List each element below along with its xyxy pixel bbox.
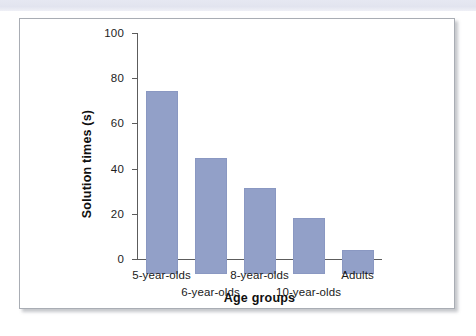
y-axis-tick: 0 <box>132 259 137 260</box>
x-axis-category-label: 8-year-olds <box>230 269 289 281</box>
x-axis-category-label: 5-year-olds <box>132 269 191 281</box>
y-axis-title: Solution times (s) <box>80 109 94 217</box>
y-axis-tick: 100 <box>132 33 137 34</box>
y-axis-tick: 20 <box>132 214 137 215</box>
y-axis-tick: 80 <box>132 78 137 79</box>
y-axis-tick-label: 20 <box>111 208 124 220</box>
y-axis-tick-label: 60 <box>111 117 124 129</box>
page-top-strip <box>0 0 476 11</box>
bar <box>146 91 178 274</box>
y-axis-line <box>137 33 138 260</box>
bar <box>244 188 276 274</box>
y-axis-tick: 60 <box>132 123 137 124</box>
y-axis-tick-label: 40 <box>111 163 124 175</box>
bar <box>195 158 227 274</box>
bar <box>293 218 325 275</box>
chart-panel: Solution times (s) 020406080100 5-year-o… <box>19 18 455 309</box>
y-axis-tick-label: 80 <box>111 72 124 84</box>
y-axis-tick: 40 <box>132 169 137 170</box>
x-axis-category-label: Adults <box>341 269 374 281</box>
figure-root: Solution times (s) 020406080100 5-year-o… <box>0 0 476 336</box>
y-axis-tick-label: 100 <box>104 27 124 39</box>
x-axis-title: Age groups <box>137 291 382 305</box>
plot-area: 020406080100 5-year-olds6-year-olds8-yea… <box>137 33 382 274</box>
y-axis-tick-label: 0 <box>117 253 124 265</box>
